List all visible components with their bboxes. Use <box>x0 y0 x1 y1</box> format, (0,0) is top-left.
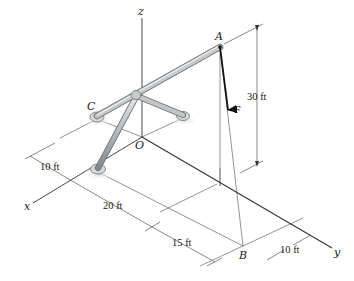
x-axis-label: x <box>24 200 31 213</box>
dim-height-label: 30 ft <box>247 91 267 102</box>
axes <box>33 18 332 248</box>
statics-diagram: z x y O A B C F 30 ft 10 ft 20 ft 15 ft … <box>0 0 354 281</box>
dim-y-offset-label: 10 ft <box>280 244 300 255</box>
z-axis-label: z <box>137 5 144 18</box>
dim-x-offset-label: 10 ft <box>40 161 60 172</box>
y-axis <box>142 137 332 248</box>
dim-x-span-label: 20 ft <box>103 200 123 211</box>
force-arrow <box>220 47 228 110</box>
point-b-label: B <box>238 249 247 262</box>
force-label: F <box>234 103 241 115</box>
ground-lines <box>60 47 303 266</box>
y-axis-label: y <box>333 246 341 259</box>
dim-y-span-label: 15 ft <box>172 237 192 248</box>
origin-label: O <box>135 139 144 152</box>
rods <box>97 46 220 168</box>
point-a-label: A <box>214 30 223 43</box>
point-c-label: C <box>87 100 96 113</box>
